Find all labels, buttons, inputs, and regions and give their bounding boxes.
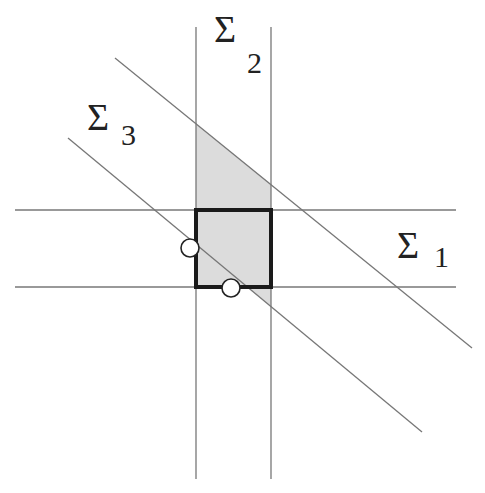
marker-left-circle [181,239,199,257]
sigma3-line-upper [115,58,472,348]
sigma3-symbol: Σ [87,96,109,138]
sigma2-symbol: Σ [214,8,236,50]
label-sigma1: Σ 1 [397,224,449,273]
shaded-region [196,124,271,287]
marker-bottom-circle [222,279,240,297]
sigma2-subscript: 2 [247,46,262,79]
sigma1-symbol: Σ [397,224,419,266]
sigma3-subscript: 3 [121,118,136,151]
label-sigma3: Σ 3 [87,96,136,151]
arrangement-diagram: Σ 2 Σ 3 Σ 1 [0,0,485,493]
label-sigma2: Σ 2 [214,8,262,79]
sigma1-subscript: 1 [434,240,449,273]
